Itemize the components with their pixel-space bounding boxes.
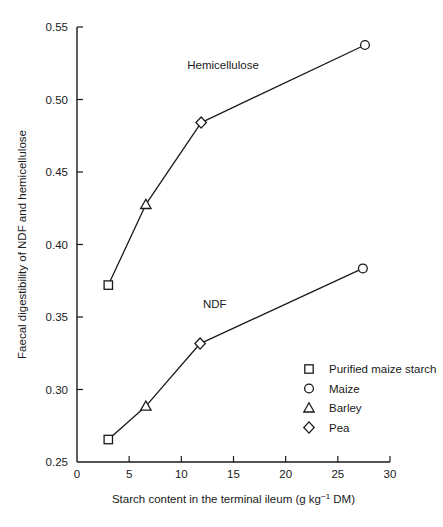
- x-axis-tick-label: 10: [175, 468, 188, 480]
- y-axis-tick-label: 0.30: [46, 384, 68, 396]
- series-label-ndf: NDF: [203, 298, 227, 310]
- y-axis-tick-label: 0.50: [46, 94, 68, 106]
- legend-label-circle: Maize: [329, 383, 360, 395]
- data-point-square-hemicellulose: [104, 281, 112, 289]
- y-axis-tick-label: 0.35: [46, 311, 68, 323]
- legend-label-diamond: Pea: [329, 422, 350, 434]
- x-axis-tick-label: 5: [126, 468, 132, 480]
- chart-background: [0, 0, 443, 527]
- x-axis-tick-label: 25: [331, 468, 344, 480]
- y-axis-tick-label: 0.45: [46, 166, 68, 178]
- chart-figure: 0.250.300.350.400.450.500.55 05101520253…: [0, 0, 443, 527]
- faecal-digestibility-line-chart: 0.250.300.350.400.450.500.55 05101520253…: [0, 0, 443, 527]
- y-axis-tick-label: 0.40: [46, 239, 68, 251]
- legend-label-triangle: Barley: [329, 402, 362, 414]
- data-point-square-ndf: [104, 435, 112, 443]
- x-axis-tick-label: 0: [74, 468, 80, 480]
- x-axis-tick-label: 30: [384, 468, 397, 480]
- legend-label-square: Purified maize starch: [329, 363, 436, 375]
- y-axis-title: Faecal digestibility of NDF and hemicell…: [16, 130, 28, 359]
- x-axis-tick-label: 15: [227, 468, 240, 480]
- data-point-circle-hemicellulose: [361, 41, 370, 50]
- data-point-circle-ndf: [358, 264, 367, 273]
- x-axis-title: Starch content in the terminal ileum (g …: [112, 492, 355, 505]
- x-axis-tick-label: 20: [279, 468, 292, 480]
- legend-marker-square: [305, 365, 313, 373]
- y-axis-tick-label: 0.55: [46, 21, 68, 33]
- legend-marker-circle: [305, 384, 314, 393]
- y-axis-tick-label: 0.25: [46, 456, 68, 468]
- series-label-hemicellulose: Hemicellulose: [187, 59, 259, 71]
